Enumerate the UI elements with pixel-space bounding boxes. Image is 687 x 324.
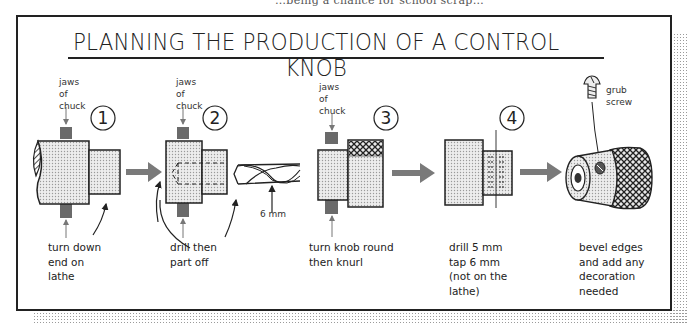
caption-line: (not on the (449, 269, 507, 284)
caption-line: part off (170, 255, 217, 270)
label-line: screw (606, 96, 632, 108)
step-4-caption: drill 5 mm tap 6 mm (not on the lathe) (449, 240, 507, 298)
arrow-step-3-to-4 (392, 163, 435, 183)
label-line: chuck (176, 100, 203, 112)
caption-line: drill then (170, 240, 217, 255)
caption-line: bevel edges (579, 240, 645, 255)
step-1-caption: turn down end on lathe (48, 240, 101, 284)
step-1-chuck-label: jaws of chuck (59, 76, 86, 112)
caption-line: turn down (48, 240, 101, 255)
step-2-illustration: 2 (156, 106, 300, 248)
caption-line: lathe (48, 269, 101, 284)
step-2-caption: drill then part off (170, 240, 217, 269)
label-line: jaws (176, 76, 203, 88)
caption-line: lathe) (449, 284, 507, 299)
label-line: jaws (59, 76, 86, 88)
caption-line: end on (48, 255, 101, 270)
label-line: chuck (319, 105, 346, 117)
label-line: of (319, 93, 346, 105)
caption-line: turn knob round (309, 240, 394, 255)
label-line: chuck (59, 100, 86, 112)
drill-size-label: 6 mm (260, 208, 286, 220)
caption-line: needed (579, 284, 645, 299)
svg-text:1: 1 (98, 108, 109, 128)
label-line: of (176, 88, 203, 100)
caption-line: and add any (579, 255, 645, 270)
step-4-illustration: 4 (445, 106, 524, 208)
step-1-illustration: 1 (33, 106, 120, 238)
step-5-caption: bevel edges and add any decoration neede… (579, 240, 645, 298)
step-2-chuck-label: jaws of chuck (176, 76, 203, 112)
svg-text:3: 3 (381, 108, 392, 128)
label-line: grub (606, 84, 632, 96)
svg-text:4: 4 (507, 108, 518, 128)
step-3-caption: turn knob round then knurl (309, 240, 394, 269)
arrow-step-4-to-5 (520, 162, 562, 182)
caption-line: tap 6 mm (449, 255, 507, 270)
arrow-step-1-to-2 (126, 162, 162, 182)
svg-text:2: 2 (210, 108, 221, 128)
caption-line: then knurl (309, 255, 394, 270)
step-3-chuck-label: jaws of chuck (319, 81, 346, 117)
caption-line: decoration (579, 269, 645, 284)
label-line: jaws (319, 81, 346, 93)
step-3-illustration: 3 (318, 106, 398, 237)
grub-screw-label: grub screw (606, 84, 632, 108)
caption-line: drill 5 mm (449, 240, 507, 255)
label-line: of (59, 88, 86, 100)
